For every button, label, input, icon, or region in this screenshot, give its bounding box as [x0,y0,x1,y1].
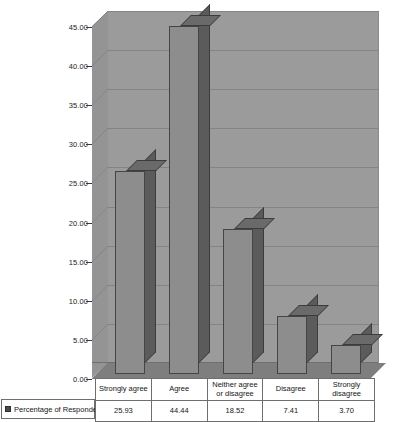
gridline [108,89,378,90]
data-table-area: Percentage of Respondents Strongly agree… [0,378,396,421]
gridline [108,11,378,12]
plot-side-wall [92,11,109,378]
bar-front-face [331,345,361,374]
y-axis-tick-mark [86,301,92,302]
bar-front-face [223,229,253,374]
y-axis-tick-label: 10.00 [48,296,88,305]
table-cell-value: 44.44 [151,401,207,422]
bar-side-face [145,149,156,363]
data-table: Strongly agreeAgreeNeither agree or disa… [95,378,375,422]
y-axis-tick-label: 5.00 [48,335,88,344]
legend-series-label: Percentage of Respondents [14,405,107,414]
y-axis-tick-mark [86,223,92,224]
table-cell-category: Neither agree or disagree [207,379,263,401]
bar-side-face [253,207,264,363]
table-cell-value: 3.70 [319,401,375,422]
y-axis-tick-label: 15.00 [48,257,88,266]
bar-front-face [169,26,199,374]
y-axis-tick-mark [86,262,92,263]
table-cell-value: 18.52 [207,401,263,422]
bar-column [223,218,253,374]
y-axis-tick-label: 35.00 [48,101,88,110]
y-axis-tick-label: 40.00 [48,62,88,71]
y-axis-tick-label: 30.00 [48,140,88,149]
table-row-categories: Strongly agreeAgreeNeither agree or disa… [96,379,375,401]
bar-column [277,305,307,374]
table-cell-value: 25.93 [96,401,152,422]
y-axis-tick-mark [86,183,92,184]
table-cell-category: Disagree [263,379,319,401]
bar-column [169,15,199,374]
bar-front-face [115,171,145,374]
bar-column [115,160,145,374]
bar-front-face [277,316,307,374]
y-axis-tick-mark [86,340,92,341]
table-cell-category: Strongly disagree [319,379,375,401]
y-axis-tick-mark [86,105,92,106]
table-cell-category: Strongly agree [96,379,152,401]
y-axis-tick-label: 20.00 [48,218,88,227]
table-cell-category: Agree [151,379,207,401]
y-axis-tick-label: 25.00 [48,179,88,188]
gridline [108,50,378,51]
plot-area: 0.005.0010.0015.0020.0025.0030.0035.0040… [0,0,396,379]
y-axis-tick-label: 45.00 [48,23,88,32]
bar-side-face [199,4,210,363]
legend-entry: Percentage of Respondents [1,399,95,419]
square-swatch-icon [5,406,11,412]
bar-column [331,334,361,374]
y-axis-tick-mark [86,66,92,67]
y-axis-tick-mark [86,27,92,28]
gridline [108,128,378,129]
table-cell-value: 7.41 [263,401,319,422]
table-row-values: 25.9344.4418.527.413.70 [96,401,375,422]
y-axis-tick-mark [86,144,92,145]
